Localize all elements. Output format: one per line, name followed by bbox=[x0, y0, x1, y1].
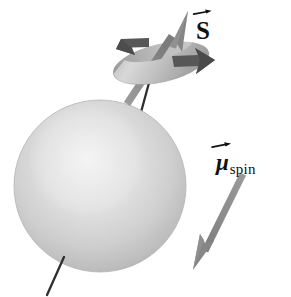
label-spin-angular-momentum: S bbox=[196, 9, 210, 43]
spin-magnetic-moment-figure: S μ spin bbox=[0, 0, 291, 297]
label-spin-magnetic-moment: μ spin bbox=[216, 142, 255, 174]
s-symbol: S bbox=[196, 18, 210, 43]
mu-symbol: μ bbox=[216, 151, 229, 174]
mu-glyph-stack: μ bbox=[216, 142, 229, 174]
s-glyph-stack: S bbox=[196, 9, 210, 43]
spinning-sphere bbox=[14, 100, 186, 272]
rotation-axis-lower bbox=[47, 257, 64, 295]
vector-arrow-icon bbox=[193, 9, 212, 16]
spin-magnetic-moment-arrow bbox=[193, 174, 243, 270]
mu-subscript: spin bbox=[230, 161, 256, 177]
